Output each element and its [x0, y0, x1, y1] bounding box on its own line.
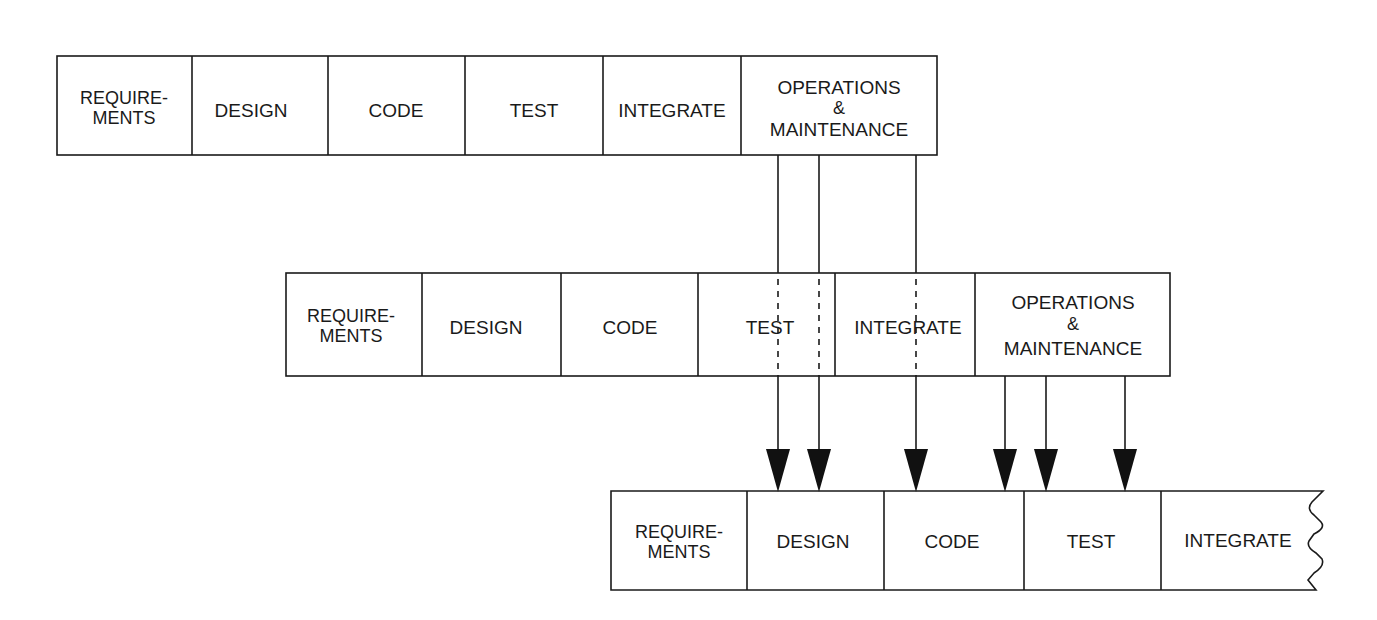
cycle-1-frame [57, 56, 937, 155]
svg-text:REQUIRE-: REQUIRE- [307, 306, 395, 326]
svg-text:&: & [833, 98, 845, 118]
svg-text:MENTS: MENTS [93, 108, 156, 128]
cycle-3-row: REQUIRE- MENTS DESIGN CODE TEST INTEGRAT… [611, 491, 1323, 590]
cycle-1-phase-design: DESIGN [215, 100, 288, 121]
cycle-1-phase-code: CODE [369, 100, 424, 121]
cycle-1-phase-integrate: INTEGRATE [618, 100, 725, 121]
lifecycle-diagram: REQUIRE- MENTS DESIGN CODE TEST INTEGRAT… [0, 0, 1377, 620]
svg-text:MENTS: MENTS [648, 542, 711, 562]
cycle-2-frame [286, 273, 1170, 376]
cycle-2-phase-integrate: INTEGRATE [854, 317, 961, 338]
feedback-arrows-cycle-2 [993, 376, 1137, 492]
cycle-1-phase-test: TEST [510, 100, 559, 121]
cycle-2-phase-test: TEST [746, 317, 795, 338]
svg-text:REQUIRE-: REQUIRE- [80, 88, 168, 108]
arrowhead-icon [1113, 449, 1137, 492]
arrowhead-icon [904, 449, 928, 492]
cycle-2-phase-code: CODE [603, 317, 658, 338]
cycle-3-phase-integrate: INTEGRATE [1184, 530, 1291, 551]
arrowhead-icon [993, 449, 1017, 492]
cycle-2-phase-requirements: REQUIRE- MENTS [307, 306, 395, 346]
arrowhead-icon [1034, 449, 1058, 492]
arrowhead-icon [807, 449, 831, 492]
svg-text:&: & [1067, 314, 1079, 334]
svg-text:OPERATIONS: OPERATIONS [777, 77, 900, 98]
cycle-3-phase-design: DESIGN [777, 531, 850, 552]
cycle-2-phase-design: DESIGN [450, 317, 523, 338]
svg-text:MAINTENANCE: MAINTENANCE [770, 119, 908, 140]
svg-text:REQUIRE-: REQUIRE- [635, 522, 723, 542]
cycle-2-row: REQUIRE- MENTS DESIGN CODE TEST INTEGRAT… [286, 273, 1170, 376]
cycle-1-row: REQUIRE- MENTS DESIGN CODE TEST INTEGRAT… [57, 56, 937, 155]
arrowhead-icon [766, 449, 790, 492]
cycle-1-phase-requirements: REQUIRE- MENTS [80, 88, 168, 128]
cycle-3-phase-requirements: REQUIRE- MENTS [635, 522, 723, 562]
cycle-3-phase-test: TEST [1067, 531, 1116, 552]
svg-text:MENTS: MENTS [320, 326, 383, 346]
svg-text:MAINTENANCE: MAINTENANCE [1004, 338, 1142, 359]
cycle-3-phase-code: CODE [925, 531, 980, 552]
svg-text:OPERATIONS: OPERATIONS [1011, 292, 1134, 313]
